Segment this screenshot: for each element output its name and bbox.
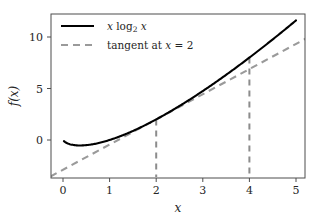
x-axis-title: x — [175, 201, 182, 215]
legend-label-curve: x log2 x — [107, 20, 147, 34]
y-tick-marks — [47, 37, 51, 140]
x-tick-label: 4 — [246, 184, 253, 197]
y-axis-title: f(x) — [7, 85, 21, 107]
chart-figure: 0 1 2 3 4 5 0 5 10 x f(x) — [0, 0, 320, 219]
y-tick-label: 10 — [29, 31, 43, 44]
x-tick-labels: 0 1 2 3 4 5 — [60, 184, 300, 197]
x-tick-label: 2 — [153, 184, 160, 197]
y-tick-label: 0 — [36, 134, 43, 147]
y-tick-labels: 0 5 10 — [29, 31, 43, 147]
x-tick-marks — [63, 178, 296, 182]
x-tick-label: 5 — [293, 184, 300, 197]
x-tick-label: 3 — [199, 184, 206, 197]
svg-text:f(x): f(x) — [7, 85, 21, 107]
y-tick-label: 5 — [36, 83, 43, 96]
x-tick-label: 0 — [60, 184, 67, 197]
x-tick-label: 1 — [106, 184, 113, 197]
plot-canvas: 0 1 2 3 4 5 0 5 10 x f(x) — [0, 0, 320, 219]
legend-label-tangent: tangent at x = 2 — [107, 39, 193, 51]
